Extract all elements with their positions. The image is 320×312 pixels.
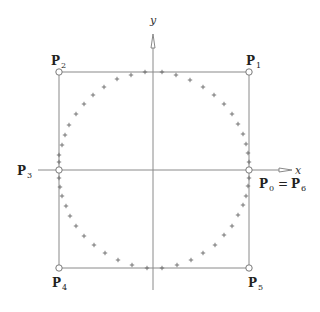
plus-marker-icon [160, 266, 164, 270]
plus-marker-icon [244, 142, 248, 146]
control-point-p5 [246, 265, 252, 271]
plus-marker-icon [246, 184, 250, 188]
plus-marker-icon [57, 176, 61, 180]
plus-marker-icon [236, 213, 240, 217]
plus-marker-icon [230, 112, 234, 116]
plus-marker-icon [175, 263, 179, 267]
plus-marker-icon [230, 224, 234, 228]
label-p2-sub: 2 [61, 61, 66, 70]
plus-marker-icon [130, 263, 134, 267]
plus-marker-icon [64, 204, 68, 208]
x-axis-arrow-icon [279, 168, 292, 172]
plus-marker-icon [60, 194, 64, 198]
diagram-canvas: x y P 1 P 2 P 3 P 4 P 5 P 0 = P 6 [0, 0, 320, 312]
plus-marker-icon [222, 102, 226, 106]
label-p5: P 5 [248, 276, 263, 292]
plus-marker-icon [236, 122, 240, 126]
label-p0-eq-p6: P 0 = P 6 [259, 177, 306, 193]
plus-marker-icon [68, 214, 72, 218]
label-p6-sub: 6 [301, 184, 306, 193]
plus-marker-icon [82, 234, 86, 238]
label-equals: = [278, 177, 288, 191]
plus-marker-icon [188, 78, 192, 82]
plus-marker-icon [189, 258, 193, 262]
plus-marker-icon [247, 160, 251, 164]
plus-marker-icon [57, 160, 61, 164]
label-p2-main: P [51, 54, 60, 68]
plus-marker-icon [246, 151, 250, 155]
control-point-p3 [56, 167, 62, 173]
label-p4-main: P [52, 276, 61, 290]
control-point-p4 [56, 265, 62, 271]
plus-marker-icon [174, 73, 178, 77]
control-point-p0 [246, 167, 252, 173]
label-p0-sub: 0 [269, 184, 274, 193]
plus-marker-icon [143, 70, 147, 74]
plus-marker-icon [212, 93, 216, 97]
plus-marker-icon [67, 123, 71, 127]
plus-marker-icon [60, 143, 64, 147]
plus-marker-icon [201, 251, 205, 255]
x-axis-label: x [295, 164, 302, 177]
plus-marker-icon [145, 266, 149, 270]
label-p4: P 4 [52, 276, 67, 292]
label-p6-main: P [291, 177, 300, 191]
plus-marker-icon [58, 185, 62, 189]
plus-marker-icon [241, 203, 245, 207]
label-p3-sub: 3 [27, 171, 32, 180]
label-p3: P 3 [17, 164, 32, 180]
label-p1: P 1 [246, 54, 261, 70]
plus-marker-icon [201, 85, 205, 89]
label-p5-sub: 5 [258, 283, 263, 292]
label-p5-main: P [248, 276, 257, 290]
control-point-p1 [246, 69, 252, 75]
plus-marker-icon [213, 243, 217, 247]
label-p0-main: P [259, 177, 268, 191]
label-p1-sub: 1 [256, 61, 261, 70]
plus-marker-icon [160, 70, 164, 74]
y-axis-arrow-icon [151, 34, 155, 48]
plus-marker-icon [241, 132, 245, 136]
plus-marker-icon [91, 93, 95, 97]
plus-marker-icon [63, 133, 67, 137]
plus-marker-icon [129, 73, 133, 77]
plus-marker-icon [103, 251, 107, 255]
plus-marker-icon [82, 102, 86, 106]
plus-marker-icon [102, 85, 106, 89]
label-p4-sub: 4 [62, 283, 67, 292]
label-p1-main: P [246, 54, 255, 68]
plus-marker-icon [244, 194, 248, 198]
plus-marker-icon [74, 224, 78, 228]
plus-marker-icon [116, 258, 120, 262]
y-axis-label: y [149, 14, 157, 27]
plus-marker-icon [247, 176, 251, 180]
label-p3-main: P [17, 164, 26, 178]
plus-marker-icon [74, 112, 78, 116]
label-p2: P 2 [51, 54, 66, 70]
plus-marker-icon [57, 153, 61, 157]
plus-marker-icon [92, 243, 96, 247]
plus-marker-icon [222, 233, 226, 237]
plus-marker-icon [115, 77, 119, 81]
